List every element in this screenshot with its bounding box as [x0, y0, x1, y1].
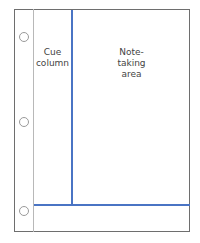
notebook-page — [14, 9, 190, 232]
cue-label-line1: Cue — [34, 47, 71, 58]
cue-column-label: Cue column — [34, 47, 71, 69]
margin-line — [33, 9, 34, 232]
cue-label-line2: column — [34, 58, 71, 69]
note-taking-area-label: Note- taking area — [73, 47, 190, 80]
binder-hole-top-icon — [19, 32, 29, 42]
binder-hole-middle-icon — [19, 117, 29, 127]
note-label-line2: taking — [73, 58, 190, 69]
binder-hole-bottom-icon — [19, 206, 29, 216]
summary-divider — [34, 204, 190, 206]
note-label-line3: area — [73, 69, 190, 80]
cue-column-divider — [71, 10, 73, 205]
note-label-line1: Note- — [73, 47, 190, 58]
